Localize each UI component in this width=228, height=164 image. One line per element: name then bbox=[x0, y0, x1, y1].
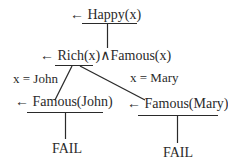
node-fail-mary: FAIL bbox=[163, 146, 193, 160]
node-famous-john: ← Famous(John) bbox=[15, 95, 113, 109]
node-famous-mary: ← Famous(Mary) bbox=[127, 97, 228, 111]
edge-label-john: x = John bbox=[13, 72, 58, 86]
edge-label-mary: x = Mary bbox=[130, 71, 179, 85]
node-rich-and-famous: ← Rich(x)∧Famous(x) bbox=[40, 49, 171, 63]
node-fail-john: FAIL bbox=[52, 142, 82, 156]
node-happy: ← Happy(x) bbox=[70, 8, 141, 22]
